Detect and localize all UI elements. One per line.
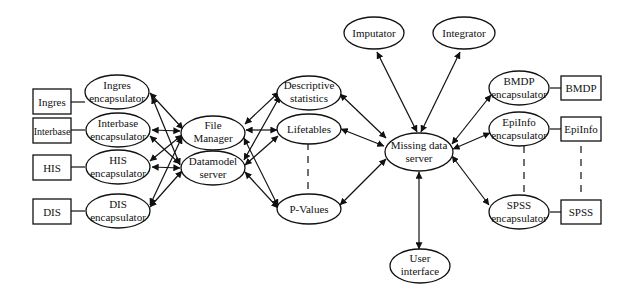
label-ingres: Ingres (38, 96, 66, 108)
node-p-values: P-Values (277, 194, 341, 224)
node-ingres: Ingres (33, 89, 71, 114)
edge-dis-filemanager (150, 137, 182, 205)
label-user-1: User (410, 252, 431, 264)
node-his: HIS (33, 155, 71, 180)
edge-missing-bmdp (452, 95, 491, 144)
node-imputator: Imputator (344, 17, 404, 49)
edge-his-datamodel (152, 167, 180, 168)
edge-datamodel-pvalues (245, 172, 278, 208)
edge-imputator-missing (377, 52, 417, 132)
label-imputator: Imputator (352, 27, 396, 39)
node-descriptive-statistics: Descriptive statistics (277, 76, 341, 110)
edge-pvalues-missing (340, 159, 386, 205)
label-ingres-enc-1: Ingres (103, 79, 131, 91)
node-missing-data-server: Missing data server (385, 133, 453, 171)
label-epiinfo-enc-2: encapsulator (491, 129, 547, 141)
architecture-diagram: Ingres Interbase HIS DIS Ingres encapsul… (0, 0, 632, 295)
label-integrator: Integrator (442, 27, 486, 39)
node-his-encapsulator: HIS encapsulator (86, 150, 150, 184)
node-file-manager: File Manager (181, 116, 245, 150)
label-his-enc-2: encapsulator (90, 167, 146, 179)
node-bmdp: BMDP (561, 76, 601, 100)
node-dis-encapsulator: DIS encapsulator (86, 194, 150, 228)
label-missing-1: Missing data (391, 139, 448, 151)
label-spss: SPSS (569, 206, 593, 218)
node-dis: DIS (33, 199, 71, 224)
node-lifetables: Lifetables (277, 114, 341, 144)
label-lifetables: Lifetables (287, 123, 331, 135)
edge-lifetables-missing (341, 129, 384, 146)
node-datamodel-server: Datamodel server (181, 151, 245, 185)
label-bmdp: BMDP (565, 82, 596, 94)
label-dis-enc-1: DIS (109, 198, 127, 210)
label-bmdp-enc-1: BMDP (503, 75, 534, 87)
label-missing-2: server (406, 152, 433, 164)
node-epiinfo: EpiInfo (561, 117, 601, 141)
label-file-manager-2: Manager (193, 132, 232, 144)
node-spss-encapsulator: SPSS encapsulator (489, 195, 549, 229)
label-descriptive-1: Descriptive (284, 79, 335, 91)
label-datamodel-2: server (200, 168, 227, 180)
node-epiinfo-encapsulator: EpiInfo encapsulator (489, 112, 549, 146)
label-dis-enc-2: encapsulator (90, 211, 146, 223)
diagram-svg: Ingres Interbase HIS DIS Ingres encapsul… (0, 0, 632, 295)
label-spss-enc-2: encapsulator (491, 212, 547, 224)
label-ingres-enc-2: encapsulator (89, 92, 145, 104)
label-user-2: interface (401, 265, 440, 277)
label-epiinfo: EpiInfo (564, 123, 598, 135)
edge-integrator-missing (421, 52, 460, 132)
node-interbase-encapsulator: Interbase encapsulator (86, 113, 150, 147)
node-user-interface: User interface (390, 249, 450, 283)
edge-ingres-filemanager (150, 93, 183, 129)
label-p-values: P-Values (289, 203, 328, 215)
label-file-manager-1: File (204, 119, 221, 131)
label-bmdp-enc-2: encapsulator (491, 88, 547, 100)
node-integrator: Integrator (433, 17, 495, 49)
node-spss: SPSS (561, 200, 601, 224)
label-datamodel-1: Datamodel (189, 155, 237, 167)
label-epiinfo-enc-1: EpiInfo (502, 116, 536, 128)
edge-dis-datamodel (150, 171, 182, 207)
label-his-enc-1: HIS (109, 154, 127, 166)
label-dis: DIS (43, 206, 61, 218)
edge-missing-spss (452, 156, 489, 205)
label-spss-enc-1: SPSS (507, 199, 531, 211)
label-interbase-enc-2: encapsulator (90, 130, 146, 142)
label-interbase: Interbase (34, 126, 71, 137)
label-his: HIS (43, 162, 61, 174)
label-descriptive-2: statistics (290, 92, 328, 104)
label-interbase-enc-1: Interbase (98, 117, 138, 129)
edge-filemanager-pvalues (244, 138, 278, 206)
node-interbase: Interbase (33, 118, 71, 143)
edge-interbase-filemanager (152, 130, 180, 131)
node-bmdp-encapsulator: BMDP encapsulator (489, 71, 549, 105)
node-ingres-encapsulator: Ingres encapsulator (85, 75, 149, 109)
